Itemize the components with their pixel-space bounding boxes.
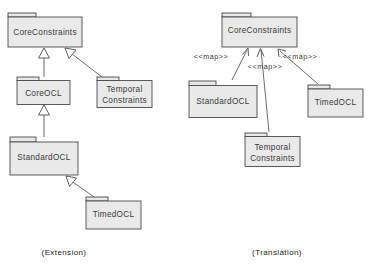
package-label: TimedOCL xyxy=(315,98,357,107)
package-label: TimedOCL xyxy=(93,210,135,219)
package-coreocl: CoreOCL xyxy=(17,77,70,105)
package-tab xyxy=(8,13,36,17)
generalization-coreocl-to-coreconstraints xyxy=(39,48,50,77)
package-standardocl: StandardOCL xyxy=(10,137,78,175)
package-label-line-1: Temporal xyxy=(254,143,290,152)
uml-package-diagrams: CoreConstraints CoreOCL Temporal Constra… xyxy=(0,0,371,265)
package-tab xyxy=(97,77,119,81)
generalization-standardocl-to-coreocl xyxy=(39,105,50,137)
stereotype-map-left: <<map>> xyxy=(194,52,228,61)
stereotype-map-right: <<map>> xyxy=(283,52,317,61)
package-tab xyxy=(86,197,108,201)
package-label: CoreConstraints xyxy=(228,26,292,35)
package-label: CoreConstraints xyxy=(13,28,77,37)
package-tab xyxy=(222,13,251,17)
map-dependency-standardocl xyxy=(232,48,249,80)
package-label: StandardOCL xyxy=(196,97,250,106)
hollow-triangle-arrow-icon xyxy=(39,48,50,58)
package-label-line-2: Constraints xyxy=(250,154,295,163)
hollow-triangle-arrow-icon xyxy=(65,48,76,59)
package-tab xyxy=(10,137,36,142)
package-timedocl: TimedOCL xyxy=(86,197,141,229)
package-coreconstraints: CoreConstraints xyxy=(222,13,297,47)
caption-extension: (Extension) xyxy=(42,248,87,257)
package-temporal-constraints: Temporal Constraints xyxy=(97,77,152,108)
generalization-timedocl-to-standardocl xyxy=(66,176,94,197)
package-tab xyxy=(17,77,39,81)
package-label-line-1: Temporal xyxy=(106,85,142,94)
package-tab xyxy=(245,133,267,137)
generalization-temporal-to-coreconstraints xyxy=(65,48,102,77)
package-standardocl: StandardOCL xyxy=(189,81,257,118)
stereotype-map-center: <<map>> xyxy=(248,62,282,71)
package-label: StandardOCL xyxy=(17,153,71,162)
hollow-triangle-arrow-icon xyxy=(66,176,77,187)
package-coreconstraints: CoreConstraints xyxy=(8,13,82,47)
hollow-triangle-arrow-icon xyxy=(39,105,50,115)
caption-translation: (Translation) xyxy=(252,248,302,257)
package-timedocl: TimedOCL xyxy=(308,85,363,117)
package-tab xyxy=(308,85,330,89)
package-label: CoreOCL xyxy=(25,89,62,98)
package-temporal-constraints: Temporal Constraints xyxy=(245,133,300,167)
package-tab xyxy=(189,81,216,86)
extension-diagram: CoreConstraints CoreOCL Temporal Constra… xyxy=(8,13,152,257)
translation-diagram: <<map>> <<map>> <<map>> CoreConstraints … xyxy=(189,13,363,257)
open-arrow-icon xyxy=(257,49,264,58)
package-label-line-2: Constraints xyxy=(102,96,147,105)
